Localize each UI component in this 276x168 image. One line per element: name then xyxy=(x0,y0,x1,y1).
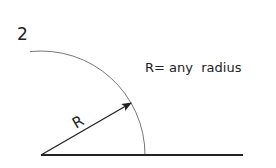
radius-diagram: 2 R R= any radius xyxy=(0,0,276,168)
radius-annotation: R= any radius xyxy=(145,60,242,75)
radius-arc xyxy=(30,51,145,155)
figure-number: 2 xyxy=(17,24,28,44)
radius-arrow xyxy=(41,103,131,155)
